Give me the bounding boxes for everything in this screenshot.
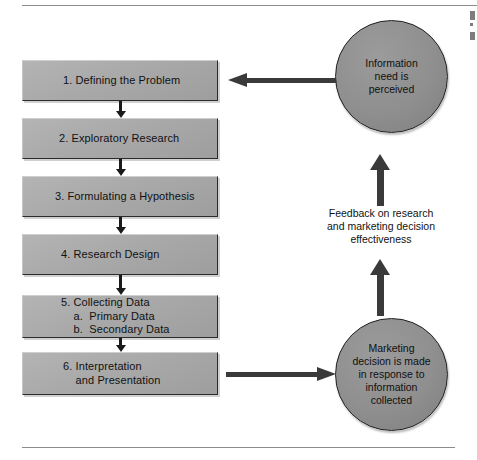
circle-marketing-decision: Marketing decision is made in response t… xyxy=(335,318,448,431)
process-step-5-line-2: a. Primary Data xyxy=(61,310,217,324)
feedback-caption: Feedback on research and marketing decis… xyxy=(305,207,457,246)
circle-marketing-decision-text: Marketing decision is made in response t… xyxy=(352,342,430,407)
process-step-3-line-1: 3. Formulating a Hypothesis xyxy=(55,190,217,204)
process-step-5-line-1: 5. Collecting Data xyxy=(61,296,217,310)
arrow-right-to-marketing-decision-icon xyxy=(226,370,336,379)
process-step-box-5: 5. Collecting Data a. Primary Data b. Se… xyxy=(22,295,218,338)
circle-bottom-line-2: decision is made xyxy=(352,355,430,368)
process-step-2-line-1: 2. Exploratory Research xyxy=(59,132,217,146)
process-step-6-line-2: and Presentation xyxy=(63,374,217,388)
margin-fragment-mark-2 xyxy=(470,23,473,26)
feedback-caption-line-1: Feedback on research xyxy=(305,207,457,220)
circle-bottom-line-1: Marketing xyxy=(352,342,430,355)
circle-information-need: Information need is perceived xyxy=(335,20,448,133)
circle-information-need-text: Information need is perceived xyxy=(365,57,418,96)
process-step-box-4: 4. Research Design xyxy=(22,234,218,275)
process-step-1-line-1: 1. Defining the Problem xyxy=(63,74,217,88)
arrow-left-to-defining-problem-icon xyxy=(228,76,336,85)
arrow-down-step-2-to-3-icon xyxy=(118,159,123,170)
feedback-caption-line-3: effectiveness xyxy=(305,233,457,246)
bottom-divider-rule xyxy=(22,447,455,448)
process-step-box-1: 1. Defining the Problem xyxy=(22,60,218,101)
process-step-box-2: 2. Exploratory Research xyxy=(22,118,218,159)
arrow-up-feedback-to-information-need-icon xyxy=(372,154,388,206)
margin-fragment-mark-3 xyxy=(470,32,475,40)
arrow-down-step-5-to-6-icon xyxy=(118,338,123,346)
arrow-down-step-4-to-5-icon xyxy=(118,275,123,289)
circle-top-line-2: need is xyxy=(365,70,418,83)
arrow-down-step-1-to-2-icon xyxy=(118,101,123,112)
process-step-box-6: 6. Interpretation and Presentation xyxy=(22,352,218,395)
process-step-4-line-1: 4. Research Design xyxy=(61,248,217,262)
circle-top-line-1: Information xyxy=(365,57,418,70)
feedback-caption-line-2: and marketing decision xyxy=(305,220,457,233)
circle-bottom-line-3: in response to xyxy=(352,368,430,381)
top-divider-rule xyxy=(22,5,477,6)
arrow-down-step-3-to-4-icon xyxy=(118,217,123,228)
process-step-5-line-3: b. Secondary Data xyxy=(61,323,217,337)
margin-fragment-mark-1 xyxy=(470,11,475,20)
arrow-up-decision-to-feedback-icon xyxy=(372,259,388,316)
process-step-box-3: 3. Formulating a Hypothesis xyxy=(22,176,218,217)
circle-bottom-line-4: information xyxy=(352,381,430,394)
circle-bottom-line-5: collected xyxy=(352,394,430,407)
circle-top-line-3: perceived xyxy=(365,83,418,96)
research-process-diagram: 1. Defining the Problem 2. Exploratory R… xyxy=(0,0,477,460)
process-step-6-line-1: 6. Interpretation xyxy=(63,360,217,374)
